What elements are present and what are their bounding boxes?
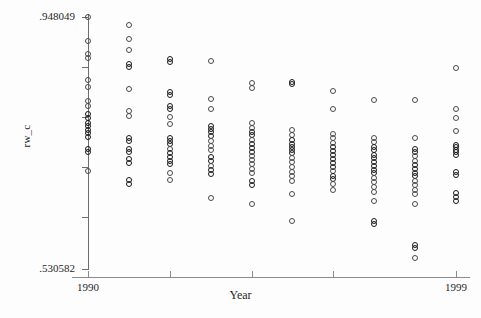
data-point	[249, 125, 255, 131]
data-point	[208, 138, 214, 144]
data-point	[126, 86, 132, 92]
data-point	[249, 85, 255, 91]
data-point	[167, 114, 173, 120]
data-point	[330, 164, 336, 170]
data-point	[167, 135, 173, 141]
data-point	[289, 81, 295, 87]
data-point	[371, 170, 377, 176]
data-point	[371, 218, 377, 224]
data-point	[126, 138, 132, 144]
data-point	[330, 135, 336, 141]
data-point	[289, 218, 295, 224]
data-point	[167, 141, 173, 147]
data-point	[412, 255, 418, 261]
data-point	[289, 169, 295, 175]
data-point	[453, 152, 459, 158]
y-axis-tick	[82, 117, 88, 118]
data-point	[453, 190, 459, 196]
data-point	[167, 89, 173, 95]
data-point	[371, 189, 377, 195]
data-point	[249, 170, 255, 176]
data-point	[126, 181, 132, 187]
data-point	[167, 161, 173, 167]
data-point	[330, 187, 336, 193]
data-point	[453, 128, 459, 134]
data-point	[371, 179, 377, 185]
y-axis-title: rw_c	[20, 106, 32, 166]
x-axis-tick	[333, 271, 334, 278]
data-point	[126, 160, 132, 166]
y-axis-label-max: .948049	[0, 10, 75, 22]
data-point	[453, 198, 459, 204]
data-point	[289, 147, 295, 153]
data-point	[453, 106, 459, 112]
data-point	[167, 92, 173, 98]
data-point	[208, 106, 214, 112]
data-point	[412, 201, 418, 207]
data-point	[371, 152, 377, 158]
data-point	[371, 184, 377, 190]
data-point	[249, 149, 255, 155]
data-point	[208, 167, 214, 173]
data-point	[371, 135, 377, 141]
data-point	[289, 173, 295, 179]
data-point	[412, 173, 418, 179]
data-point	[167, 170, 173, 176]
x-axis-tick	[252, 271, 253, 278]
data-point	[126, 36, 132, 42]
data-point	[453, 149, 459, 155]
data-point	[289, 164, 295, 170]
data-point	[330, 160, 336, 166]
x-axis-line	[72, 277, 470, 278]
data-point	[249, 178, 255, 184]
data-point	[126, 61, 132, 67]
data-point	[249, 132, 255, 138]
data-point	[289, 155, 295, 161]
y-axis-line	[88, 14, 89, 270]
data-point	[412, 182, 418, 188]
data-point	[167, 121, 173, 127]
x-axis-tick	[456, 271, 457, 278]
data-point	[371, 147, 377, 153]
data-point	[371, 139, 377, 145]
data-point	[412, 178, 418, 184]
data-point	[126, 64, 132, 70]
data-point	[330, 168, 336, 174]
data-point	[289, 178, 295, 184]
data-point	[330, 106, 336, 112]
data-point	[412, 162, 418, 168]
data-point	[126, 47, 132, 53]
data-point	[371, 155, 377, 161]
data-point	[371, 175, 377, 181]
data-point	[412, 146, 418, 152]
data-point	[289, 137, 295, 143]
data-point	[208, 154, 214, 160]
scatter-plot-figure: rw_c .948049 .530582 1990 1999 Year	[0, 0, 481, 318]
data-point	[126, 113, 132, 119]
data-point	[249, 201, 255, 207]
data-point	[371, 198, 377, 204]
data-point	[167, 103, 173, 109]
data-point	[289, 144, 295, 150]
data-point	[167, 138, 173, 144]
data-point	[126, 22, 132, 28]
data-point	[412, 245, 418, 251]
data-point	[249, 182, 255, 188]
data-point	[208, 96, 214, 102]
data-point	[412, 97, 418, 103]
data-point	[208, 171, 214, 177]
data-point	[412, 187, 418, 193]
data-point	[289, 150, 295, 156]
data-point	[249, 120, 255, 126]
data-point	[126, 177, 132, 183]
data-point	[167, 106, 173, 112]
data-point	[289, 127, 295, 133]
data-point	[208, 126, 214, 132]
data-point	[412, 191, 418, 197]
data-point	[249, 137, 255, 143]
data-point	[167, 59, 173, 65]
data-point	[249, 153, 255, 159]
y-axis-tick	[82, 17, 88, 18]
data-point	[412, 153, 418, 159]
data-point	[330, 148, 336, 154]
